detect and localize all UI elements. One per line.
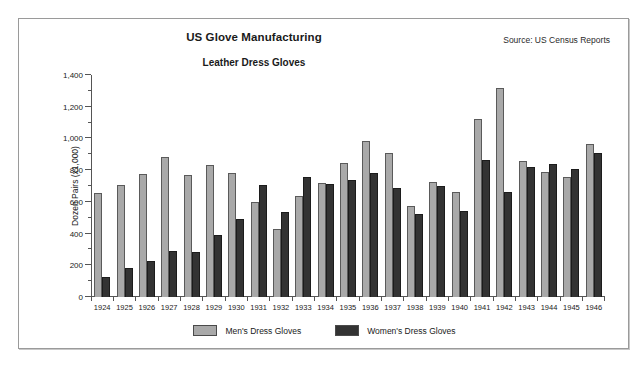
bar-men-1945 [563, 177, 571, 297]
y-tick-label: 1,400 [63, 71, 83, 80]
x-tick-label: 1937 [381, 297, 403, 319]
bar-women-1945 [571, 169, 579, 297]
x-tick-label: 1939 [426, 297, 448, 319]
x-tick-label: 1940 [449, 297, 471, 319]
bar-women-1943 [527, 167, 535, 297]
x-tick-label: 1928 [180, 297, 202, 319]
bar-group [203, 75, 225, 297]
legend-swatch [193, 325, 217, 336]
bar-men-1940 [452, 192, 460, 297]
bar-group [225, 75, 247, 297]
bar-women-1939 [437, 186, 445, 297]
bar-group [583, 75, 605, 297]
bar-group [292, 75, 314, 297]
chart-legend: Men's Dress GlovesWomen's Dress Gloves [19, 325, 630, 336]
plot-area: Dozen Pairs (x1,000) 1,4001,2001,0008006… [91, 75, 605, 297]
chart-subtitle: Leather Dress Gloves [19, 57, 489, 68]
x-tick-label: 1924 [91, 297, 113, 319]
bar-women-1924 [102, 277, 110, 297]
bar-group [180, 75, 202, 297]
bar-women-1938 [415, 214, 423, 297]
legend-item: Men's Dress Gloves [193, 325, 301, 336]
bar-men-1939 [429, 182, 437, 297]
bar-group [404, 75, 426, 297]
bar-men-1943 [519, 161, 527, 297]
bar-group [337, 75, 359, 297]
bar-women-1925 [125, 268, 133, 297]
bar-men-1930 [228, 173, 236, 297]
y-tick-label: 1,200 [63, 102, 83, 111]
bar-group [136, 75, 158, 297]
x-tick-label: 1941 [471, 297, 493, 319]
bar-group [314, 75, 336, 297]
bar-men-1929 [206, 165, 214, 297]
bar-men-1924 [94, 193, 102, 297]
bar-men-1925 [117, 185, 125, 297]
bar-group [449, 75, 471, 297]
bar-group [426, 75, 448, 297]
bar-men-1932 [273, 229, 281, 297]
chart-figure: US Glove Manufacturing Leather Dress Glo… [18, 18, 629, 349]
bar-group [471, 75, 493, 297]
chart-source-note: Source: US Census Reports [503, 35, 610, 45]
bar-men-1944 [541, 172, 549, 297]
bar-men-1931 [251, 202, 259, 297]
bar-women-1928 [192, 252, 200, 297]
y-tick-label: 600 [70, 197, 83, 206]
bar-women-1941 [482, 160, 490, 297]
bar-women-1946 [594, 153, 602, 297]
y-tick-label: 800 [70, 166, 83, 175]
bar-men-1934 [318, 183, 326, 297]
x-tick-label: 1927 [158, 297, 180, 319]
bar-men-1928 [184, 175, 192, 297]
bar-women-1931 [259, 185, 267, 297]
x-tick-label: 1929 [203, 297, 225, 319]
bar-men-1926 [139, 174, 147, 297]
bar-women-1932 [281, 212, 289, 297]
y-axis-title: Dozen Pairs (x1,000) [70, 146, 80, 226]
legend-item: Women's Dress Gloves [335, 325, 455, 336]
bar-women-1937 [393, 188, 401, 297]
bar-men-1927 [161, 157, 169, 297]
x-tick-label: 1932 [270, 297, 292, 319]
bar-women-1934 [326, 184, 334, 297]
bar-group [158, 75, 180, 297]
y-tick-label: 1,000 [63, 134, 83, 143]
bar-men-1935 [340, 163, 348, 297]
x-tick-label: 1933 [292, 297, 314, 319]
bar-group [113, 75, 135, 297]
x-tick-label: 1930 [225, 297, 247, 319]
bar-women-1927 [169, 251, 177, 297]
bar-women-1936 [370, 173, 378, 297]
legend-label: Men's Dress Gloves [225, 326, 301, 336]
legend-label: Women's Dress Gloves [367, 326, 455, 336]
bar-men-1942 [496, 88, 504, 297]
bar-men-1941 [474, 119, 482, 297]
x-tick-label: 1934 [314, 297, 336, 319]
x-tick-label: 1931 [247, 297, 269, 319]
bar-women-1940 [460, 211, 468, 297]
bar-women-1942 [504, 192, 512, 297]
x-tick-label: 1943 [516, 297, 538, 319]
x-tick-label: 1942 [493, 297, 515, 319]
bar-group [538, 75, 560, 297]
bar-women-1933 [303, 177, 311, 298]
bar-group [91, 75, 113, 297]
bar-group [359, 75, 381, 297]
bar-women-1929 [214, 235, 222, 297]
bar-group [493, 75, 515, 297]
x-tick-label: 1944 [538, 297, 560, 319]
bar-group [516, 75, 538, 297]
bar-group [270, 75, 292, 297]
bar-women-1926 [147, 261, 155, 297]
y-tick-label: 200 [70, 261, 83, 270]
x-tick-label: 1935 [337, 297, 359, 319]
x-tick-label: 1926 [136, 297, 158, 319]
y-tick-label: 400 [70, 229, 83, 238]
bar-men-1936 [362, 141, 370, 297]
chart-title: US Glove Manufacturing [19, 31, 489, 43]
bar-group [247, 75, 269, 297]
bar-group [560, 75, 582, 297]
x-tick-label: 1946 [583, 297, 605, 319]
x-tick-label: 1945 [560, 297, 582, 319]
